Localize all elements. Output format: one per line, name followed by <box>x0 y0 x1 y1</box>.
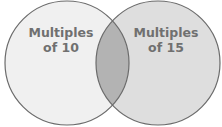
set-b-label-line2: of 15 <box>148 40 184 55</box>
set-b-label-line1: Multiples <box>133 25 198 40</box>
set-a-label-line1: Multiples <box>28 25 93 40</box>
set-a-label-line2: of 10 <box>43 40 79 55</box>
venn-diagram: Multiples of 10 Multiples of 15 <box>0 0 222 127</box>
